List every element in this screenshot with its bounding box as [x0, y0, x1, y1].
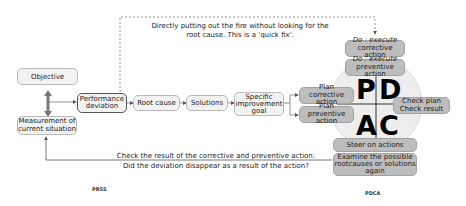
examine-box[interactable]: Examine the possible rootcauses or solut… — [333, 153, 417, 176]
check-label-2: Check result — [400, 106, 444, 114]
measurement-box[interactable]: Measurement of current situation — [17, 116, 77, 135]
letter-a: A — [356, 112, 377, 139]
quick-fix-note: Directly putting out the fire without lo… — [140, 22, 340, 40]
solutions-box[interactable]: Solutions — [186, 95, 228, 111]
quick-fix-line2: root cause. This is a 'quick fix'. — [140, 31, 340, 40]
press-caption: PRSS — [92, 186, 107, 192]
pdca-caption: PDCA — [365, 190, 380, 196]
steer-label: Steer on actions — [346, 141, 403, 149]
plan-preventive-label-2: preventive action — [300, 111, 353, 126]
letter-c: C — [379, 112, 399, 139]
steer-box[interactable]: Steer on actions — [333, 138, 417, 152]
root-cause-label: Root cause — [137, 99, 176, 107]
measurement-label-2: current situation — [18, 126, 76, 134]
quick-fix-line1: Directly putting out the fire without lo… — [140, 22, 340, 31]
goal-label-3: goal — [252, 108, 267, 115]
letter-p: P — [356, 76, 376, 103]
root-cause-box[interactable]: Root cause — [133, 95, 180, 111]
performance-deviation-box[interactable]: Performance deviation — [77, 93, 127, 113]
check-result-note: Check the result of the corrective and p… — [96, 152, 336, 171]
examine-label-3: again — [365, 168, 384, 175]
check-result-line1: Check the result of the corrective and p… — [96, 152, 336, 161]
objective-label: Objective — [31, 73, 64, 81]
check-result-line2: Did the deviation disappear as a result … — [96, 162, 336, 171]
check-box[interactable]: Check plan Check result — [393, 97, 450, 114]
plan-preventive-box[interactable]: Plan preventive action — [299, 106, 354, 123]
objective-box[interactable]: Objective — [17, 68, 78, 85]
improvement-goal-box[interactable]: Specific improvement goal — [234, 92, 284, 116]
solutions-label: Solutions — [191, 99, 223, 107]
performance-label-2: deviation — [86, 103, 119, 111]
